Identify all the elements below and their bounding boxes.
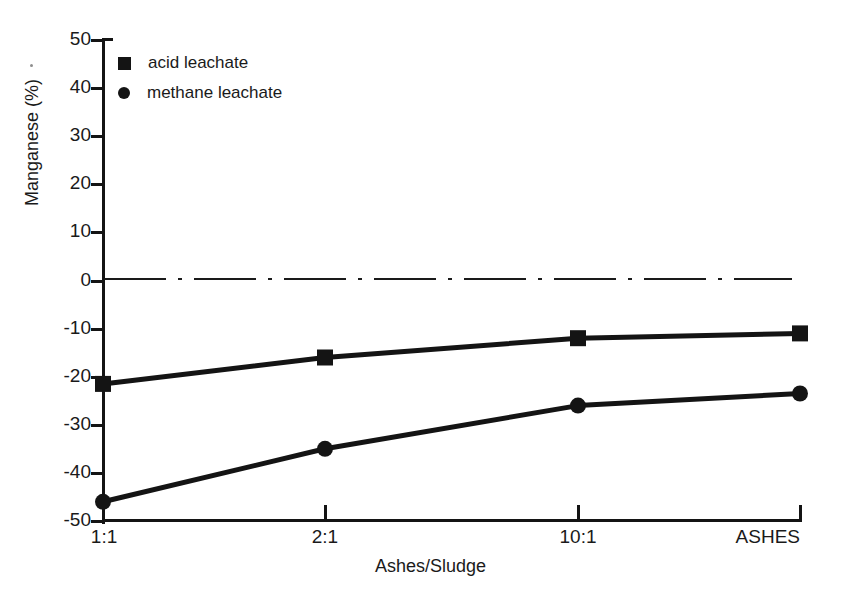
y-axis-tick [91, 280, 103, 283]
y-axis-tick [91, 328, 103, 331]
legend-item: acid leachate [118, 48, 282, 78]
y-axis-tick [91, 472, 103, 475]
y-axis-tick-label: -10 [31, 318, 91, 337]
circle-marker-icon [118, 87, 130, 99]
y-axis-tick-label: -30 [31, 414, 91, 433]
y-axis-tick [91, 39, 103, 42]
x-axis-title-text: Ashes/Sludge [357, 556, 486, 576]
x-axis-line [102, 519, 802, 522]
y-axis-title: Manganese (%) [22, 180, 42, 206]
x-axis-tick-label: 2:1 [312, 527, 338, 547]
data-point-marker [792, 325, 808, 341]
x-axis-tick-label: ASHES [736, 527, 800, 547]
y-axis-tick [91, 424, 103, 427]
y-axis-tick [91, 376, 103, 379]
x-axis-tick-label: 10:1 [560, 527, 597, 547]
data-point-marker [317, 350, 333, 366]
y-axis-tick-label: 50 [31, 29, 91, 48]
legend-item-label: acid leachate [148, 54, 248, 72]
y-axis-tick-label: -50 [31, 510, 91, 529]
y-axis-tick [91, 520, 103, 523]
y-axis-tick [91, 135, 103, 138]
legend-item-label: methane leachate [147, 84, 282, 102]
scan-artifact-speck [30, 64, 33, 67]
x-axis-tick [324, 505, 327, 522]
chart-figure: 50403020100-10-20-30-40-50 1:12:110:1ASH… [0, 0, 843, 593]
x-axis-tick-label: 1:1 [91, 527, 117, 547]
x-axis-tick [799, 505, 802, 522]
y-axis-tick-label: 10 [31, 221, 91, 240]
data-point-marker [792, 386, 808, 402]
y-axis-tick [91, 87, 103, 90]
y-axis-tick [91, 183, 103, 186]
data-point-marker [317, 441, 333, 457]
y-axis-tick-label: 0 [31, 270, 91, 289]
y-axis-tick-label: -20 [31, 366, 91, 385]
y-axis-tick [91, 231, 103, 234]
data-point-marker [570, 330, 586, 346]
series-line-acid-leachate [103, 333, 800, 384]
data-point-marker [570, 398, 586, 414]
zero-reference-line [104, 278, 792, 280]
y-axis-top-cap [102, 38, 113, 41]
x-axis-title: Ashes/Sludge [0, 556, 843, 576]
series-line-methane-leachate [103, 394, 800, 502]
y-axis-tick-label: -40 [31, 462, 91, 481]
square-marker-icon [118, 57, 131, 70]
chart-legend: acid leachatemethane leachate [118, 48, 282, 108]
x-axis-tick [577, 505, 580, 522]
legend-item: methane leachate [118, 78, 282, 108]
